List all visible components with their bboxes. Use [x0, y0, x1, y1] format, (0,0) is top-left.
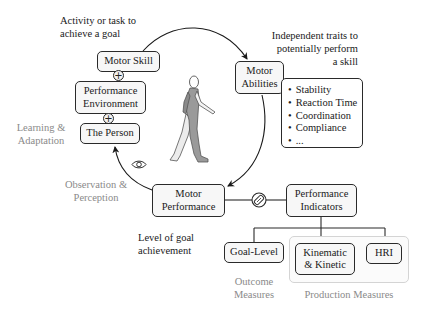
- abilities-list: Stability Reaction Time Coordination Com…: [281, 78, 363, 148]
- note-learning-adaptation: Learning & Adaptation: [12, 121, 70, 147]
- kinematic-kinetic-box: Kinematic & Kinetic: [295, 243, 355, 275]
- the-person-label: The Person: [86, 127, 134, 140]
- note-observation-line1: Observation &: [62, 178, 130, 191]
- note-outcome-line1: Outcome: [224, 275, 284, 288]
- note-goal-achievement: Level of goal achievement: [138, 231, 194, 257]
- walking-person-figure: [168, 74, 223, 166]
- motor-abilities-label-line2: Abilities: [241, 78, 277, 91]
- motor-skill-label: Motor Skill: [104, 55, 153, 68]
- the-person-box: The Person: [80, 123, 140, 144]
- motor-performance-label-line2: Performance: [162, 201, 216, 214]
- plus-icon: +: [113, 70, 124, 81]
- note-traits-line2: potentially perform: [258, 42, 358, 55]
- perf-indicators-label-line2: Indicators: [295, 201, 349, 214]
- note-observation-line2: Perception: [62, 191, 130, 204]
- eye-icon: [131, 159, 147, 170]
- motor-skill-box: Motor Skill: [97, 51, 160, 72]
- motor-performance-label-line1: Motor: [162, 188, 216, 201]
- motor-performance-box: Motor Performance: [152, 184, 225, 217]
- note-activity: Activity or task to achieve a goal: [60, 14, 136, 40]
- hri-box: HRI: [366, 243, 402, 264]
- ability-item-stability: Stability: [288, 84, 358, 97]
- note-outcome-measures: Outcome Measures: [224, 275, 284, 301]
- note-learning-line2: Adaptation: [12, 134, 70, 147]
- performance-indicators-box: Performance Indicators: [286, 184, 357, 217]
- note-production-measures: Production Measures: [289, 288, 409, 301]
- note-goal-line1: Level of goal: [138, 231, 194, 244]
- goal-level-box: Goal-Level: [224, 242, 284, 263]
- perf-env-label-line2: Environment: [83, 98, 138, 111]
- motor-abilities-box: Motor Abilities: [235, 61, 284, 94]
- perf-indicators-label-line1: Performance: [295, 188, 349, 201]
- kinematic-label-line1: Kinematic: [303, 247, 347, 260]
- perf-env-label-line1: Performance: [83, 85, 138, 98]
- note-activity-line1: Activity or task to: [60, 14, 136, 27]
- note-learning-line1: Learning &: [12, 121, 70, 134]
- note-activity-line2: achieve a goal: [60, 27, 136, 40]
- note-observation-perception: Observation & Perception: [62, 178, 130, 204]
- motor-abilities-label-line1: Motor: [241, 65, 277, 78]
- ability-item-more: ...: [288, 135, 358, 148]
- ability-item-coordination: Coordination: [288, 110, 358, 123]
- kinematic-label-line2: & Kinetic: [303, 259, 347, 272]
- ability-item-compliance: Compliance: [288, 122, 358, 135]
- note-goal-line2: achievement: [138, 244, 194, 257]
- note-outcome-line2: Measures: [224, 288, 284, 301]
- note-traits-line1: Independent traits to: [258, 29, 358, 42]
- sensor-icon: [251, 192, 267, 208]
- hri-label: HRI: [375, 247, 393, 260]
- goal-level-label: Goal-Level: [230, 246, 278, 259]
- performance-environment-box: Performance Environment: [75, 81, 146, 114]
- ability-item-reaction-time: Reaction Time: [288, 97, 358, 110]
